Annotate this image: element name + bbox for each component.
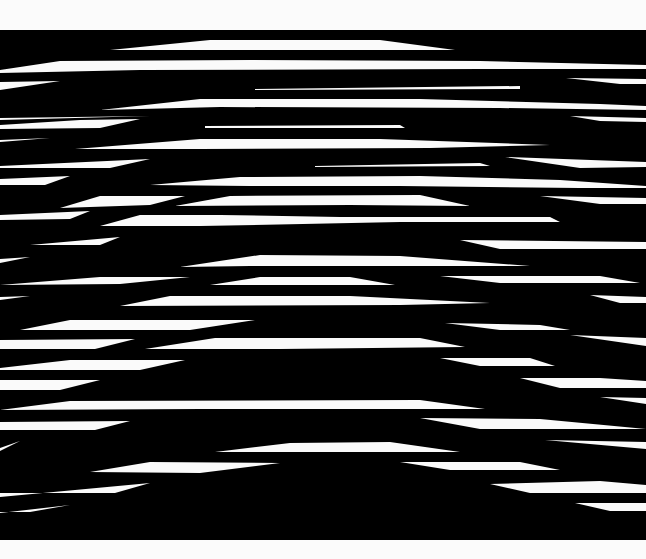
white-stripe	[0, 400, 485, 410]
op-art-artwork	[0, 0, 646, 559]
